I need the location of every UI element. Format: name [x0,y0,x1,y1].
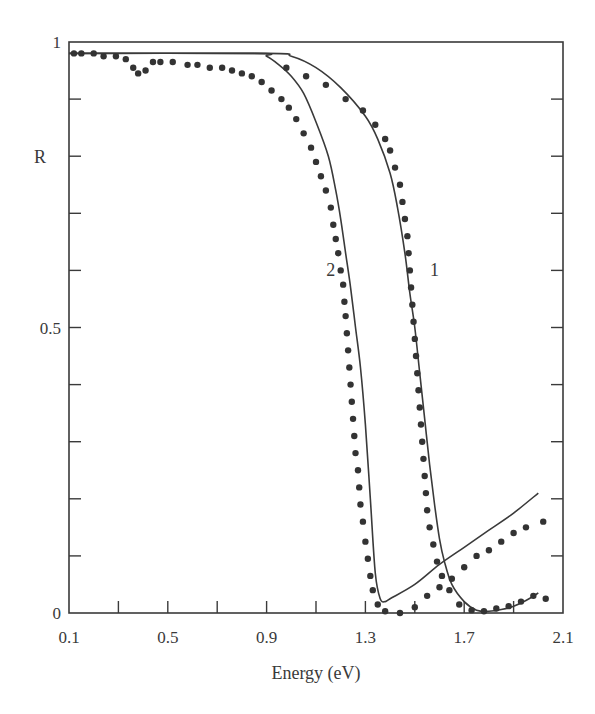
data-point [341,299,347,305]
data-point [323,187,329,193]
reflectance-chart: R Energy (eV) 0.10.50.91.31.72.100.51 21 [0,0,595,714]
data-point [335,250,341,256]
y-tick-label: 0.5 [40,319,61,338]
data-point [360,518,366,524]
data-point [351,433,357,439]
curve-label: 1 [430,260,439,280]
data-point [345,347,351,353]
data-point [157,59,163,65]
data-point [382,608,388,614]
data-point [123,56,129,62]
x-tick-label: 2.1 [552,628,573,647]
data-point [421,473,427,479]
data-point [347,381,353,387]
data-point [300,130,306,136]
data-point [113,53,119,59]
data-point [71,50,77,56]
data-point [407,267,413,273]
data-point [430,541,436,547]
data-point [510,530,516,536]
data-point [303,73,309,79]
data-point [402,216,408,222]
data-point [382,136,388,142]
data-point [446,587,452,593]
data-point [410,319,416,325]
data-point [417,404,423,410]
data-point [418,421,424,427]
chart-canvas: R Energy (eV) 0.10.50.91.31.72.100.51 21 [0,0,595,714]
data-points [71,50,549,616]
data-point [423,490,429,496]
data-point [498,538,504,544]
data-point [142,67,148,73]
data-point [365,556,371,562]
data-point [505,603,511,609]
data-point [424,507,430,513]
data-point [530,593,536,599]
data-point [130,64,136,70]
data-point [229,67,235,73]
data-point [409,301,415,307]
data-point [184,62,190,68]
data-point [449,576,455,582]
data-point [408,284,414,290]
y-tick-label: 0 [53,604,62,623]
data-point [91,50,97,56]
plot-border [69,42,563,613]
data-point [356,484,362,490]
data-point [493,605,499,611]
x-tick-label: 0.5 [157,628,178,647]
data-point [426,524,432,530]
data-point [346,364,352,370]
x-tick-label: 0.9 [256,628,277,647]
data-point [150,59,156,65]
data-point [362,538,368,544]
data-point [397,610,403,616]
data-point [342,313,348,319]
data-point [313,159,319,165]
x-tick-label: 1.3 [355,628,376,647]
data-point [375,601,381,607]
tick-labels: 0.10.50.91.31.72.100.51 [40,33,574,647]
data-point [399,199,405,205]
data-point [414,370,420,376]
data-point [540,518,546,524]
data-point [419,439,425,445]
curve-label: 2 [326,260,335,280]
data-point [350,416,356,422]
x-tick-label: 0.1 [58,628,79,647]
data-point [219,64,225,70]
data-point [370,587,376,593]
data-point [372,122,378,128]
axis-ticks [69,99,563,613]
data-point [318,173,324,179]
data-point [473,553,479,559]
data-point [405,250,411,256]
data-point [258,79,264,85]
data-point [434,558,440,564]
curves [69,53,538,611]
data-point [286,104,292,110]
data-point [328,204,334,210]
data-point [360,107,366,113]
data-point [323,82,329,88]
data-point [461,564,467,570]
data-point [338,267,344,273]
data-point [543,596,549,602]
x-tick-label: 1.7 [454,628,476,647]
data-point [333,236,339,242]
x-axis-label: Energy (eV) [271,663,360,684]
data-point [100,53,106,59]
data-point [415,387,421,393]
data-point [468,607,474,613]
data-point [424,593,430,599]
data-point [268,87,274,93]
data-point [486,547,492,553]
data-point [207,64,213,70]
data-point [404,233,410,239]
data-point [249,73,255,79]
plot-frame [69,42,563,613]
data-point [439,573,445,579]
data-point [397,182,403,188]
data-point [523,524,529,530]
